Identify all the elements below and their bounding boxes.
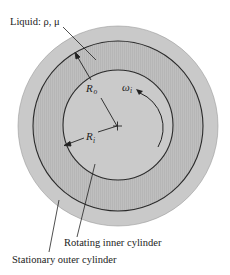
- inner-cylinder-label: Rotating inner cylinder: [64, 237, 162, 248]
- angular-velocity-label: ω: [122, 81, 130, 93]
- outer-radius-label: R: [85, 82, 93, 94]
- angular-velocity-subscript: i: [130, 86, 132, 95]
- outer-cylinder-leader-line: [49, 200, 59, 252]
- inner-radius-label: R: [85, 130, 93, 142]
- inner-radius-subscript: i: [93, 136, 95, 145]
- outer-cylinder-label: Stationary outer cylinder: [12, 254, 117, 265]
- cylinder-diagram: R o R i ω i Liquid: ρ, μ Rotating inner …: [0, 0, 230, 275]
- outer-radius-subscript: o: [94, 87, 98, 96]
- liquid-label: Liquid: ρ, μ: [10, 16, 60, 27]
- inner-cylinder: [63, 70, 173, 180]
